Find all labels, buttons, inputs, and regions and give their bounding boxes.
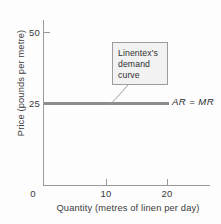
y-axis-tick-50 (44, 32, 50, 33)
demand-curve-line (44, 102, 169, 105)
x-axis-tick-label-20: 20 (155, 188, 179, 199)
callout-line-3: curve (118, 70, 167, 81)
x-axis-tick-label-10: 10 (94, 188, 118, 199)
x-axis-tick-10 (106, 179, 107, 185)
x-axis-line (43, 185, 210, 186)
y-axis-tick-label-50: 50 (18, 27, 40, 38)
callout-line-2: demand (118, 59, 167, 70)
demand-curve-chart: Price (pounds per metre) 50 25 Quantity … (0, 0, 221, 224)
x-axis-title: Quantity (metres of linen per day) (40, 203, 216, 213)
demand-curve-label: AR = MR (172, 96, 214, 107)
x-axis-tick-label-0: 0 (21, 188, 45, 199)
x-axis-tick-20 (167, 179, 168, 185)
demand-curve-callout: Linentex's demand curve (112, 42, 168, 85)
callout-line-1: Linentex's (118, 48, 167, 59)
y-axis-tick-label-25: 25 (18, 98, 40, 109)
